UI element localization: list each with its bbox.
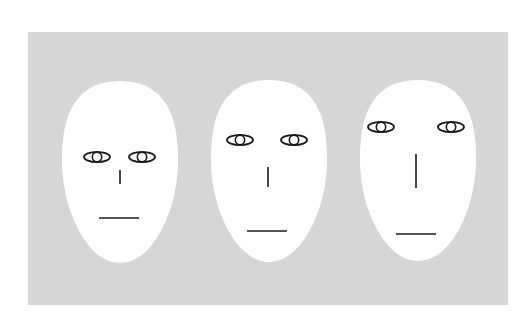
- figure-canvas: [0, 0, 532, 325]
- faces-group: [62, 80, 476, 263]
- face-proportions-figure: [0, 0, 532, 325]
